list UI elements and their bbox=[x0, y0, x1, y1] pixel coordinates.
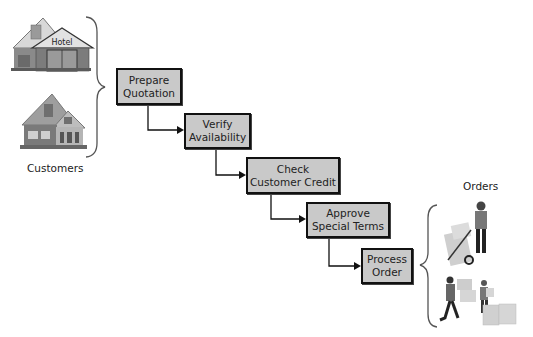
step-prepare-quotation: Prepare Quotation bbox=[116, 68, 182, 105]
step-line1: Process bbox=[367, 253, 407, 266]
step-verify-availability: Verify Availability bbox=[184, 113, 251, 149]
customers-label: Customers bbox=[27, 162, 83, 174]
hotel-sign: Hotel bbox=[51, 38, 72, 47]
step-line1: Approve bbox=[326, 207, 370, 220]
step-process-order: Process Order bbox=[361, 248, 413, 284]
right-brace bbox=[420, 205, 437, 327]
hotel-icon: Hotel bbox=[11, 18, 93, 71]
step-line1: Check bbox=[277, 163, 309, 176]
delivery-person-icon bbox=[444, 202, 487, 266]
orders-label: Orders bbox=[463, 180, 498, 192]
movers-icon bbox=[440, 277, 516, 326]
step-line2: Quotation bbox=[123, 87, 175, 100]
step-line1: Prepare bbox=[129, 74, 169, 87]
step-line1: Verify bbox=[203, 118, 233, 131]
step-approve-special-terms: Approve Special Terms bbox=[306, 202, 390, 238]
arrow-head-icon bbox=[354, 262, 361, 270]
step-check-customer-credit: Check Customer Credit bbox=[246, 157, 340, 194]
step-line2: Order bbox=[372, 266, 402, 279]
step-line2: Special Terms bbox=[312, 220, 384, 233]
house-icon bbox=[20, 94, 87, 149]
arrow-head-icon bbox=[239, 171, 246, 179]
arrow-head-icon bbox=[299, 215, 306, 223]
step-line2: Customer Credit bbox=[250, 176, 336, 189]
left-brace bbox=[86, 17, 105, 157]
step-line2: Availability bbox=[189, 131, 246, 144]
arrow-head-icon bbox=[177, 126, 184, 134]
